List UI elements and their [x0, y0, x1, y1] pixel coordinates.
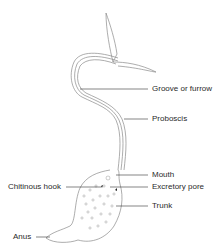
trunk-outline: [46, 170, 122, 242]
hook-mark-1: [101, 185, 103, 188]
proboscis-branch: [113, 62, 156, 72]
worm-diagram: [0, 0, 222, 252]
label-proboscis: Proboscis: [152, 114, 187, 124]
body-strand-mid: [75, 56, 123, 170]
label-trunk: Trunk: [152, 201, 172, 211]
label-anus: Anus: [13, 232, 31, 242]
label-chitinous-hook: Chitinous hook: [8, 182, 61, 192]
proboscis-tip: [106, 13, 117, 62]
label-excretory-pore: Excretory pore: [152, 182, 204, 192]
body-strand-inner: [78, 60, 126, 170]
label-mouth: Mouth: [152, 170, 174, 180]
label-groove-or-furrow: Groove or furrow: [152, 84, 212, 94]
hook-mark-2: [115, 188, 117, 191]
